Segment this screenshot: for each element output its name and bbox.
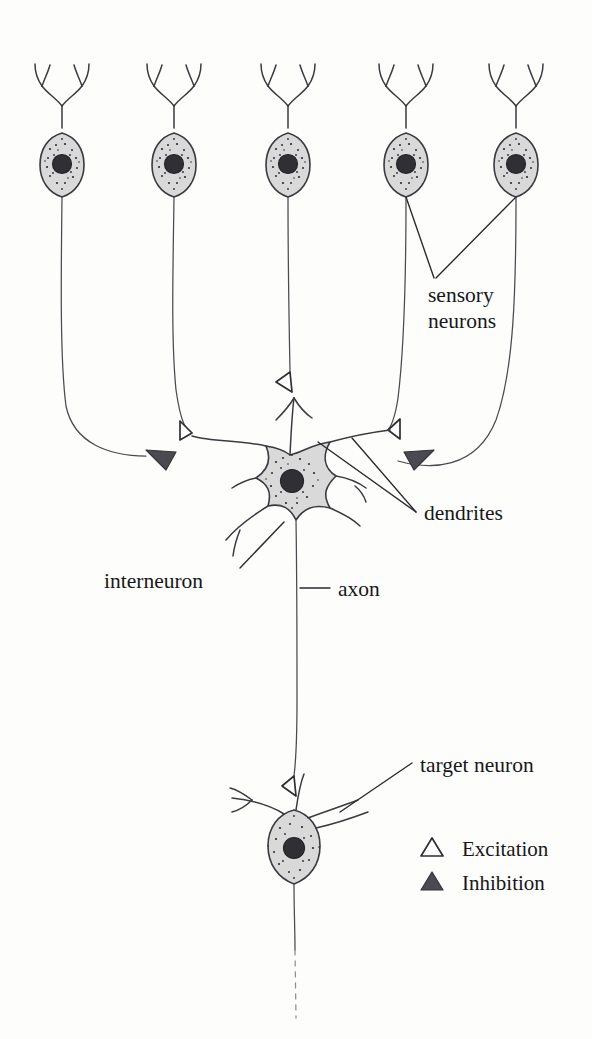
- interneuron: [192, 398, 390, 556]
- open-triangle-icon: [421, 838, 443, 856]
- target-dendrite-right: [308, 800, 358, 818]
- label-sensory-line2: neurons: [428, 309, 496, 333]
- synapse-excitatory-left: [180, 421, 192, 440]
- diagram-canvas: sensory neurons dendrites interneuron ax…: [0, 0, 592, 1039]
- axon-sensory-4: [388, 197, 406, 430]
- target-dendrite-left: [232, 798, 284, 814]
- sensory-neuron-2: [147, 64, 201, 197]
- interneuron-apical-dendrite: [290, 398, 294, 455]
- neural-circuit-svg: sensory neurons dendrites interneuron ax…: [0, 0, 592, 1039]
- axon-sensory-3: [288, 197, 290, 372]
- label-dendrites: dendrites: [424, 501, 503, 525]
- sensory-neuron-4: [379, 64, 433, 197]
- leader-target-neuron: [340, 763, 412, 812]
- interneuron-dendrite-right: [330, 430, 390, 442]
- legend-item-inhibition: Inhibition: [421, 871, 545, 895]
- synapse-excitatory-right: [388, 419, 400, 439]
- leader-sensory-neurons: [406, 197, 434, 278]
- interneuron-axon: [294, 520, 297, 776]
- legend-item-excitation: Excitation: [421, 837, 549, 861]
- legend-label-inhibition: Inhibition: [462, 871, 545, 895]
- target-dendrite-up: [296, 774, 304, 810]
- sensory-neuron-1: [35, 64, 89, 197]
- synapse-excitatory-apical: [276, 372, 292, 392]
- axon-sensory-1: [61, 197, 146, 456]
- target-neuron: [230, 774, 368, 1018]
- leader-interneuron: [240, 522, 284, 568]
- synapse-excitatory-target: [282, 776, 296, 796]
- sensory-neuron-3: [261, 64, 315, 197]
- legend: Excitation Inhibition: [421, 837, 549, 895]
- interneuron-dendrite-left: [192, 436, 266, 446]
- sensory-neuron-5: [489, 64, 543, 197]
- axon-sensory-2: [173, 197, 192, 433]
- filled-triangle-icon: [421, 872, 443, 890]
- synapse-inhibitory-right: [404, 450, 434, 470]
- label-interneuron: interneuron: [104, 569, 203, 593]
- label-sensory-line1: sensory: [428, 283, 494, 307]
- synapse-inhibitory-left: [146, 450, 176, 470]
- label-axon: axon: [338, 577, 380, 601]
- label-target-neuron: target neuron: [420, 753, 534, 777]
- legend-label-excitation: Excitation: [462, 837, 549, 861]
